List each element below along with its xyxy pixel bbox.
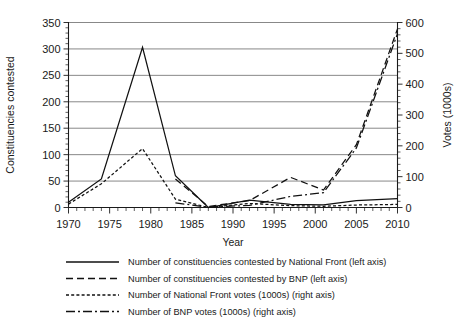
chart-figure: 0501001502002503003500100200300400500600… xyxy=(0,0,458,329)
x-axis-tick-label: 2005 xyxy=(344,218,368,230)
right-axis-tick-label: 0 xyxy=(406,202,412,214)
x-axis-title: Year xyxy=(222,236,244,248)
x-axis-tick-label: 1980 xyxy=(139,218,163,230)
legend-label-3: Number of BNP votes (1000s) (right axis) xyxy=(128,307,296,317)
x-axis-tick-label: 1985 xyxy=(180,218,204,230)
series-line-2 xyxy=(69,149,398,208)
left-axis-tick-label: 250 xyxy=(42,69,60,81)
series-line-1 xyxy=(175,29,397,207)
x-axis-tick-label: 2010 xyxy=(385,218,409,230)
y2-axis-title: Votes (1000s) xyxy=(441,83,453,148)
left-axis-tick-label: 150 xyxy=(42,122,60,134)
right-axis-tick-label: 600 xyxy=(406,17,424,29)
legend-label-2: Number of National Front votes (1000s) (… xyxy=(128,290,335,300)
right-axis-tick-label: 400 xyxy=(406,78,424,90)
x-axis-tick-label: 1990 xyxy=(221,218,245,230)
right-axis-tick-label: 500 xyxy=(406,47,424,59)
series-line-0 xyxy=(69,47,398,207)
left-axis-tick-label: 200 xyxy=(42,96,60,108)
x-axis-tick-label: 1995 xyxy=(262,218,286,230)
x-axis-tick-label: 1970 xyxy=(56,218,80,230)
left-axis-tick-label: 100 xyxy=(42,149,60,161)
right-axis-tick-label: 300 xyxy=(406,109,424,121)
left-axis-tick-label: 350 xyxy=(42,17,60,29)
left-axis-tick-label: 50 xyxy=(48,175,60,187)
x-axis-tick-label: 1975 xyxy=(97,218,121,230)
x-axis-tick-label: 2000 xyxy=(303,218,327,230)
right-axis-tick-label: 100 xyxy=(406,171,424,183)
left-axis-tick-label: 0 xyxy=(54,202,60,214)
left-axis-tick-label: 300 xyxy=(42,43,60,55)
right-axis-tick-label: 200 xyxy=(406,140,424,152)
legend-label-1: Number of constituencies contested by BN… xyxy=(128,274,347,284)
legend-label-0: Number of constituencies contested by Na… xyxy=(128,257,386,267)
line-chart: 0501001502002503003500100200300400500600… xyxy=(0,0,458,329)
y-axis-title: Constituencies contested xyxy=(4,56,16,173)
